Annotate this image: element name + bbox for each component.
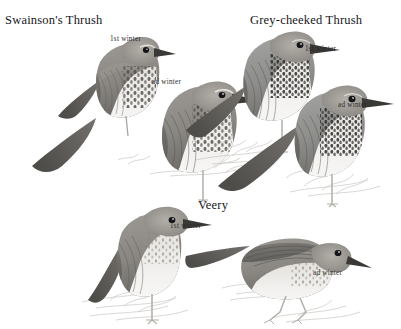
eye xyxy=(297,42,304,48)
species-title-veery: Veery xyxy=(198,198,228,213)
eye-highlight xyxy=(352,97,354,99)
eye-highlight xyxy=(300,43,302,45)
eye-highlight xyxy=(172,218,174,220)
age-label-swainsons-ad-winter: ad winter xyxy=(152,78,181,86)
age-label-veery-ad-winter: ad winter xyxy=(313,269,342,277)
age-label-veery-1st-winter: 1st winter xyxy=(170,222,201,230)
species-title-swainsons-thrush: Swainson's Thrush xyxy=(5,13,102,28)
eye-highlight xyxy=(338,251,340,253)
thrush-illustration-plate xyxy=(0,0,401,329)
species-title-grey-cheeked-thrush: Grey-cheeked Thrush xyxy=(250,13,362,28)
age-label-grey-cheeked-ad-winter: ad winter xyxy=(338,101,367,109)
age-label-grey-cheeked-1st-winter: 1st winter xyxy=(305,45,336,53)
eye-highlight xyxy=(222,93,224,95)
eye-highlight xyxy=(146,48,148,50)
eye xyxy=(143,47,149,53)
age-label-swainsons-1st-winter: 1st winter xyxy=(110,35,141,43)
eye xyxy=(335,250,342,256)
eye xyxy=(219,92,226,98)
